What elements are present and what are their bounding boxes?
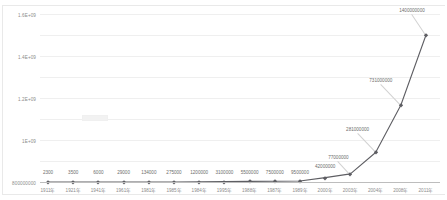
x-axis-tick-label: 1911年	[41, 187, 56, 193]
x-axis-tick-label: 2003年	[343, 187, 358, 193]
data-value-label: 134000	[141, 170, 156, 175]
y-axis-tick-label: 800000000	[12, 181, 36, 186]
x-axis-tick-label: 2011年	[419, 187, 434, 193]
data-value-label: 731000000	[369, 78, 392, 83]
x-axis-tick-label: 2004年	[368, 187, 383, 193]
data-value-label: 77000000	[328, 155, 348, 160]
x-axis-tick-label: 1985年	[166, 187, 181, 193]
x-axis-tick-label: 1988年	[242, 187, 257, 193]
x-axis-tick-label: 1981年	[141, 187, 156, 193]
x-axis-tick-label: 1995年	[217, 187, 232, 193]
data-value-label: 1400000000	[399, 8, 425, 13]
category-axis	[40, 182, 440, 183]
data-value-label: 7500000	[266, 170, 284, 175]
data-value-label: 2300	[43, 170, 53, 175]
data-value-label: 275000	[166, 170, 181, 175]
plot-area: 1.6E+091.4E+091.2E+091E+0980000000060000…	[40, 14, 440, 182]
series-polyline	[48, 35, 426, 182]
x-axis-tick-label: 1984年	[192, 187, 207, 193]
x-axis-tick-label: 1989年	[292, 187, 307, 193]
x-axis-tick-label: 1961年	[116, 187, 131, 193]
x-axis-tick-label: 2008年	[393, 187, 408, 193]
y-axis-tick-label: 1.2E+09	[18, 97, 36, 102]
y-axis-tick-label: 1.4E+09	[18, 55, 36, 60]
data-value-label: 9500000	[291, 170, 309, 175]
line-chart: 1.6E+091.4E+091.2E+091E+0980000000060000…	[0, 0, 447, 200]
data-value-label: 1200000	[190, 170, 208, 175]
data-value-label: 6000	[93, 170, 103, 175]
y-axis-tick-label: 1.6E+09	[18, 13, 36, 18]
data-value-label: 5500000	[241, 170, 259, 175]
x-axis-tick-label: 2000年	[318, 187, 333, 193]
data-value-label: 42000000	[315, 164, 335, 169]
data-value-label: 3500	[68, 170, 78, 175]
x-axis-tick-label: 1987年	[267, 187, 282, 193]
series-line-layer	[40, 14, 440, 182]
x-axis-tick-label: 1921年	[66, 187, 81, 193]
data-value-label: 281000000	[346, 127, 369, 132]
x-axis-tick-label: 1941年	[91, 187, 106, 193]
y-axis-tick-label: 1E+09	[22, 139, 36, 144]
data-value-label: 3100000	[215, 170, 233, 175]
data-value-label: 29000	[117, 170, 130, 175]
